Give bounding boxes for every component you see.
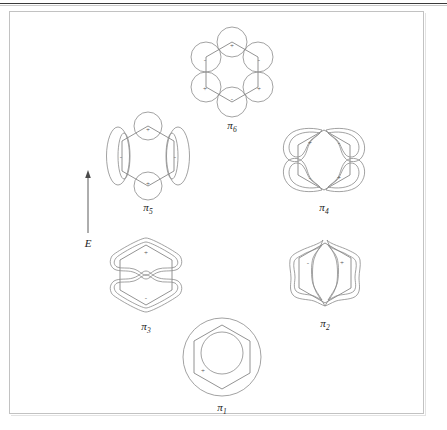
pi1-lobe-outer [183,318,261,396]
orbital-pi3: + - π3 [110,238,181,335]
pi3-sign-bottom: - [145,294,148,302]
pi6-sign-lower-left: + [203,85,207,93]
pi3-sign-top: + [144,249,148,257]
up-arrow-icon [85,170,91,178]
pi1-label: π1 [217,401,226,416]
orbital-pi5: + - - + π5 [107,112,190,216]
pi3-label: π3 [141,320,151,335]
pi3-lobe-bottom-outer [110,271,181,312]
pi5-sign-bottom: + [146,180,150,188]
pi3-lobe-top-outer [110,238,181,279]
pi4-lobe-upper-right-inner [328,132,359,157]
mo-diagram-canvas: E + - - + + - π6 [0,0,447,430]
pi4-sign-upper-left: + [308,139,312,147]
pi4-lobe-lower-left-inner [289,163,320,188]
pi6-sign-top: + [230,42,234,50]
pi4-label: π4 [319,201,329,216]
pi4-lobe-lower-right-inner [328,163,359,188]
pi6-label: π6 [227,119,237,134]
pi5-label: π5 [143,201,153,216]
pi1-lobe-inner [201,332,243,374]
pi5-sign-top: + [146,126,150,134]
pi3-lobe-top-inner [114,242,178,275]
pi3-lobe-bottom-inner [114,275,178,308]
figure-root: E + - - + + - π6 [0,0,447,430]
pi6-sign-upper-right: - [258,56,261,64]
pi4-lobe-upper-left-inner [289,132,320,157]
pi4-sign-lower-right: + [337,174,341,182]
orbital-pi6: + - - + + - π6 [191,27,273,134]
pi4-hexagon [298,130,350,190]
pi2-label: π2 [320,317,330,332]
pi6-sign-lower-right: + [257,85,261,93]
pi2-sign-right: + [340,259,344,267]
energy-axis: E [84,170,92,249]
orbital-pi4: + - - + π4 [283,128,364,216]
pi5-sign-right: - [174,153,177,161]
pi1-hexagon [194,325,250,389]
orbital-pi1: + π1 [183,318,261,416]
energy-axis-label: E [84,237,92,249]
pi2-hexagon [299,243,351,303]
pi2-sign-left: - [307,259,310,267]
pi1-sign: + [201,367,205,375]
pi6-hexagon [206,42,258,102]
orbital-pi2: - + π2 [290,240,361,332]
